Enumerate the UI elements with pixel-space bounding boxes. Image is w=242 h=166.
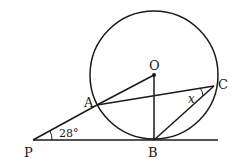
geometry-diagram: O A B C P 28° x — [0, 0, 242, 166]
angle-arc-c — [200, 88, 203, 96]
angle-arc-p — [50, 131, 52, 140]
angle-label-x: x — [188, 92, 195, 106]
center-dot-o — [152, 73, 156, 77]
diagram-canvas: O A B C P 28° x — [0, 0, 242, 166]
label-p: P — [24, 145, 33, 160]
angle-label-p: 28° — [59, 127, 79, 140]
label-c: C — [218, 77, 228, 92]
label-b: B — [148, 145, 158, 160]
label-a: A — [83, 95, 94, 110]
label-o: O — [149, 58, 160, 73]
